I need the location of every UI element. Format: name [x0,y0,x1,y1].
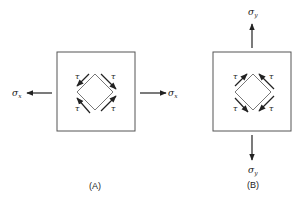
tau-label: τ [111,104,116,113]
element-square-a [57,52,135,131]
tau-label: τ [111,72,116,81]
caption-b: (B) [247,180,259,190]
sigma-y-label-top: σy [248,7,258,19]
element-square-b [213,52,291,131]
panel-a: τ τ τ τ σx σx (A) [12,52,178,191]
tau-label: τ [233,104,238,113]
tau-label: τ [75,72,80,81]
stress-diagram: τ τ τ τ σx σx (A) τ τ τ τ σy σy (B) [0,0,305,203]
tau-label: τ [233,72,238,81]
sigma-x-label-left: σx [12,88,22,99]
tau-label: τ [75,104,80,113]
sigma-y-label-bottom: σy [248,165,258,177]
caption-a: (A) [89,181,101,191]
sigma-x-label-right: σx [168,88,178,99]
tau-label: τ [269,104,274,113]
panel-b: τ τ τ τ σy σy (B) [213,7,291,190]
tau-label: τ [269,72,274,81]
